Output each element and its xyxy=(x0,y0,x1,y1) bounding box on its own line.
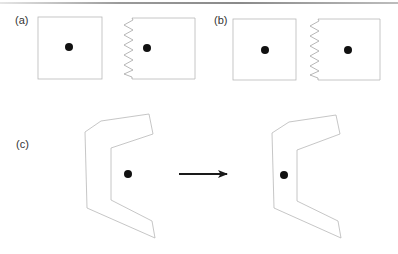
spring-icon xyxy=(124,18,133,79)
point-dot xyxy=(261,46,269,54)
point-dot xyxy=(344,46,352,54)
point-dot xyxy=(143,44,151,52)
panel-c xyxy=(85,114,341,238)
panel-b xyxy=(233,19,380,80)
free-square-a xyxy=(38,17,102,79)
spring-icon xyxy=(310,19,319,80)
c-polygon-before xyxy=(85,114,155,238)
point-dot xyxy=(65,43,73,51)
diagram-canvas xyxy=(0,0,398,254)
point-dot xyxy=(280,171,288,179)
panel-a xyxy=(38,17,195,79)
spring-square-b xyxy=(310,19,380,80)
free-square-b xyxy=(233,19,296,80)
point-dot xyxy=(124,170,132,178)
c-polygon-after xyxy=(272,115,341,238)
spring-square-a xyxy=(124,18,195,79)
